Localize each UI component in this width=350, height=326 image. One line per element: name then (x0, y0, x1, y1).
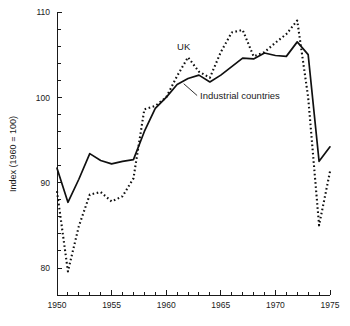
x-axis-tick-label: 1965 (211, 300, 230, 310)
y-axis-tick-label: 100 (36, 93, 50, 103)
x-axis-tick-label: 1970 (266, 300, 285, 310)
x-axis-tick-label: 1975 (321, 300, 340, 310)
x-axis-ticks (57, 290, 330, 295)
y-axis-tick-label: 80 (41, 263, 51, 273)
series-label-uk: UK (177, 41, 191, 52)
y-axis-tick-label: 110 (36, 7, 50, 17)
series-line-uk (57, 21, 330, 272)
axes (57, 12, 330, 295)
x-axis-tick-label: 1950 (48, 300, 67, 310)
y-axis-title: Index (1960 = 100) (8, 116, 18, 192)
chart-container: 8090100110 195019551960196519701975 Inde… (0, 0, 350, 326)
series-label-leader-line (184, 84, 197, 96)
y-axis-tick-labels: 8090100110 (36, 7, 50, 273)
line-chart: 8090100110 195019551960196519701975 Inde… (0, 0, 350, 326)
x-axis-tick-labels: 195019551960196519701975 (48, 300, 340, 310)
x-axis-tick-label: 1960 (157, 300, 176, 310)
series-label-industrial-countries: Industrial countries (200, 90, 280, 101)
x-axis-tick-label: 1955 (102, 300, 121, 310)
y-axis-tick-label: 90 (41, 178, 51, 188)
